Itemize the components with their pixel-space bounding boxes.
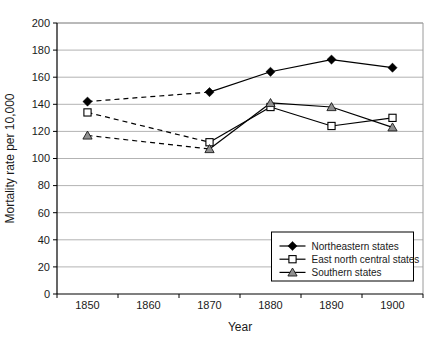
legend-label-southern-states: Southern states [312,267,382,278]
legend-marker-east-north-central-states [289,256,296,263]
chart-canvas: 0204060801001201401601802001850186018701… [0,0,436,343]
x-tick-label: 1900 [380,299,404,311]
mortality-line-chart-figure: 0204060801001201401601802001850186018701… [0,0,436,343]
y-tick-label: 200 [32,17,50,29]
data-point-east-north-central-states-1900 [389,114,396,121]
y-tick-label: 80 [38,179,50,191]
x-tick-label: 1870 [197,299,221,311]
y-tick-label: 60 [38,207,50,219]
x-tick-label: 1890 [319,299,343,311]
y-tick-label: 160 [32,71,50,83]
y-tick-label: 0 [44,288,50,300]
y-tick-label: 100 [32,152,50,164]
y-tick-label: 180 [32,44,50,56]
data-point-east-north-central-states-1890 [328,122,335,129]
y-tick-label: 20 [38,261,50,273]
y-axis-title: Mortality rate per 10,000 [3,93,17,223]
x-tick-label: 1880 [258,299,282,311]
y-tick-label: 120 [32,125,50,137]
y-tick-label: 140 [32,98,50,110]
legend-label-east-north-central-states: East north central states [312,254,420,265]
legend-label-northeastern-states: Northeastern states [312,241,399,252]
chart-background [0,0,436,343]
x-axis-title: Year [228,320,252,334]
data-point-east-north-central-states-1850 [84,109,91,116]
y-tick-label: 40 [38,234,50,246]
x-tick-label: 1860 [136,299,160,311]
x-tick-label: 1850 [75,299,99,311]
